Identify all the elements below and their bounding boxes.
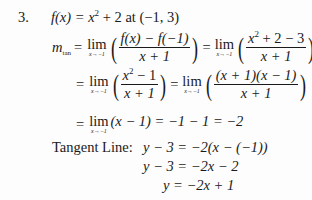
- equals-sign: =: [76, 77, 84, 92]
- problem-number: 3.: [18, 10, 29, 25]
- function-definition: f(x) = x: [51, 9, 95, 25]
- limit-evaluation: = lim x→−1 (x − 1) = −1 − 1 = −2: [76, 114, 243, 135]
- limit-result: (x − 1) = −1 − 1 = −2: [111, 114, 244, 129]
- slope-definition: mtan = lim x→−1 ( f(x) − f(−1) x + 1 ) =…: [52, 31, 312, 64]
- parenthesized-fraction: ( (x + 1)(x − 1) x + 1 ): [204, 68, 309, 101]
- tangent-point-slope: y − 3 = −2(x − (−1)): [143, 140, 268, 155]
- factored-quotient: (x + 1)(x − 1) x + 1: [214, 68, 299, 101]
- tangent-line-label: Tangent Line:: [52, 140, 133, 155]
- limit-operator: lim x→−1: [89, 74, 108, 95]
- m-tan: mtan: [52, 39, 71, 57]
- equals-sign: =: [170, 77, 178, 92]
- tangent-expanded: y − 3 = −2x − 2: [143, 159, 239, 174]
- parenthesized-fraction: ( x2 + 2 − 3 x + 1 ): [236, 31, 312, 64]
- parenthesized-fraction: ( f(x) − f(−1) x + 1 ): [109, 31, 201, 64]
- substituted-quotient: x2 + 2 − 3 x + 1: [246, 31, 306, 64]
- simplified-quotient: x2 − 1 x + 1: [121, 68, 159, 101]
- limit-operator: lim x→−1: [87, 37, 106, 58]
- simplification-step: = lim x→−1 ( x2 − 1 x + 1 ) = lim x→−1 (…: [76, 68, 308, 101]
- problem-statement: f(x) = x2 + 2 at (−1, 3): [51, 10, 179, 25]
- tangent-slope-intercept: y = −2x + 1: [163, 178, 234, 193]
- limit-operator: lim x→−1: [182, 74, 201, 95]
- difference-quotient: f(x) − f(−1) x + 1: [119, 31, 191, 64]
- equals-sign: =: [76, 117, 84, 132]
- statement-rest: + 2 at (−1, 3): [99, 9, 179, 25]
- limit-operator: lim x→−1: [89, 114, 108, 135]
- limit-operator: lim x→−1: [215, 37, 234, 58]
- equals-sign: =: [202, 40, 210, 55]
- parenthesized-fraction: ( x2 − 1 x + 1 ): [111, 68, 169, 101]
- equals-sign: =: [74, 40, 82, 55]
